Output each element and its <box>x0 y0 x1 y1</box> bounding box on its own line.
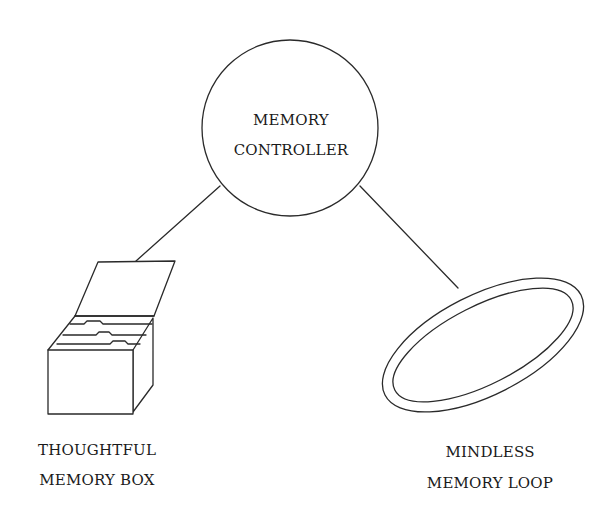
memory-controller-node: MEMORY CONTROLLER <box>202 40 378 216</box>
file-box-icon <box>48 261 175 414</box>
loop-label-line-2: MEMORY LOOP <box>427 474 553 492</box>
loop-label-line-1: MINDLESS <box>445 443 534 461</box>
file-box-lid <box>75 261 175 316</box>
box-label-line-1: THOUGHTFUL <box>38 441 156 459</box>
loop-ring-icon <box>362 251 603 440</box>
box-label-line-2: MEMORY BOX <box>39 471 155 489</box>
file-divider-3 <box>57 341 140 344</box>
thoughtful-memory-box-node: THOUGHTFUL MEMORY BOX <box>38 261 175 489</box>
edge-controller-to-loop <box>360 186 458 288</box>
file-box-front <box>48 350 133 414</box>
loop-outer-ring <box>362 251 603 440</box>
controller-label-line-1: MEMORY <box>253 111 330 129</box>
mindless-memory-loop-node: MINDLESS MEMORY LOOP <box>362 251 603 492</box>
loop-inner-ring <box>377 265 589 424</box>
edge-controller-to-box <box>136 186 220 261</box>
file-box-side <box>133 318 153 412</box>
memory-diagram: MEMORY CONTROLLER THOUGHTFUL MEMORY BOX <box>0 0 616 525</box>
file-divider-2 <box>63 332 146 335</box>
file-divider-1 <box>70 321 152 324</box>
controller-label-line-2: CONTROLLER <box>234 141 349 159</box>
